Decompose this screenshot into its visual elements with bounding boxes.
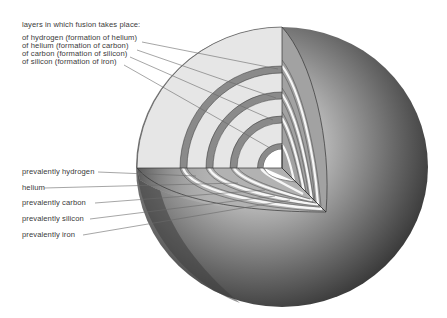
stellar-structure-diagram: layers in which fusion takes place: of h… [0,0,447,318]
composition-hydrogen: prevalently hydrogen [22,167,95,176]
composition-helium: helium [22,183,45,192]
composition-silicon: prevalently silicon [22,214,84,223]
onion-shell-star-illustration: layers in which fusion takes place: of h… [0,0,447,318]
fusion-layer-silicon: of silicon (formation of iron) [22,57,117,66]
fusion-layers-title: layers in which fusion takes place: [22,20,140,29]
composition-iron: prevalently iron [22,230,75,239]
composition-carbon: prevalently carbon [22,198,86,207]
